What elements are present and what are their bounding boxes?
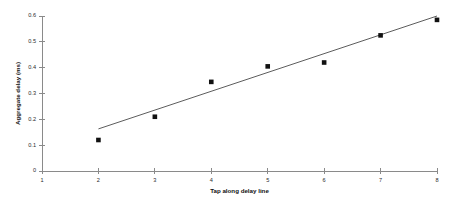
x-axis-title: Tap along delay line <box>210 187 269 194</box>
data-point-marker <box>435 18 440 23</box>
x-tick-label: 6 <box>323 177 326 183</box>
x-tick-label: 5 <box>266 177 269 183</box>
y-tick-label: 0.2 <box>28 116 36 122</box>
y-axis-title: Aggregate delay (ms) <box>14 62 21 125</box>
data-point-marker <box>378 33 383 38</box>
x-tick-label: 4 <box>210 177 213 183</box>
x-axis-group: 12345678 Tap along delay line <box>40 168 438 194</box>
data-point-group <box>96 18 439 143</box>
x-tick-label: 2 <box>97 177 100 183</box>
y-tick-label: 0.6 <box>28 12 36 18</box>
x-tick-label: 1 <box>40 177 43 183</box>
x-tick-label: 8 <box>435 177 438 183</box>
chart-canvas: 00.10.20.30.40.50.6 Aggregate delay (ms)… <box>0 0 450 207</box>
data-point-marker <box>153 114 158 119</box>
y-tick-label: 0.3 <box>28 90 36 96</box>
y-tick-label: 0.1 <box>28 142 36 148</box>
data-point-marker <box>209 80 214 85</box>
data-point-marker <box>265 64 270 69</box>
x-tick-group: 12345678 <box>40 168 438 183</box>
trend-line <box>98 16 437 129</box>
data-point-marker <box>96 138 101 143</box>
x-tick-label: 7 <box>379 177 382 183</box>
y-tick-label: 0.4 <box>28 64 36 70</box>
y-tick-label: 0 <box>33 167 36 173</box>
trend-line-group <box>98 16 437 129</box>
x-tick-label: 3 <box>153 177 156 183</box>
scatter-chart: 00.10.20.30.40.50.6 Aggregate delay (ms)… <box>0 0 450 207</box>
y-tick-label: 0.5 <box>28 38 36 44</box>
data-point-marker <box>322 60 327 65</box>
y-axis-group: 00.10.20.30.40.50.6 Aggregate delay (ms) <box>14 12 45 173</box>
